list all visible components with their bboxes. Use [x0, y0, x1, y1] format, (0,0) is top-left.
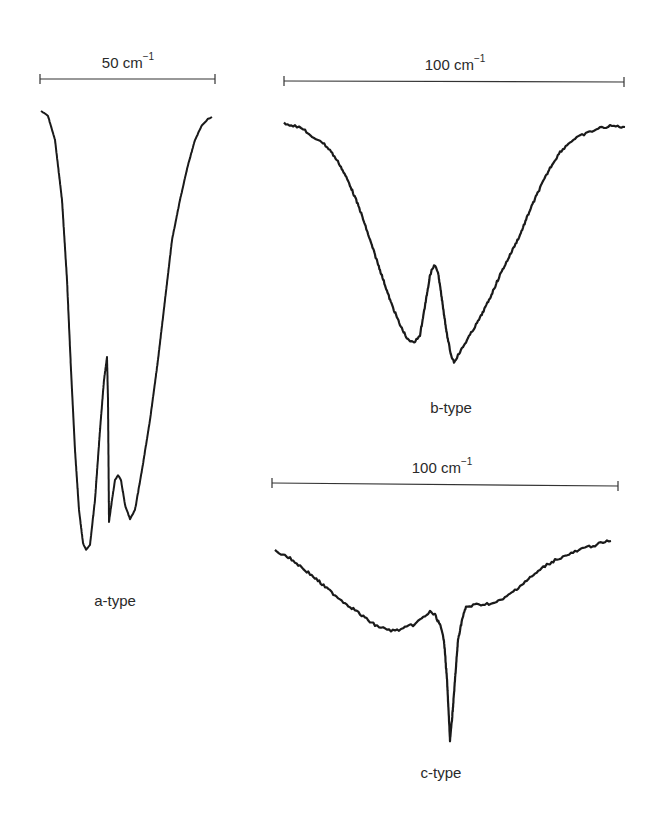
spectrum-trace-c [275, 540, 611, 741]
panel-label-c: c-type [421, 764, 462, 781]
scale-label-b-text: 100 cm [425, 56, 474, 73]
spectrum-trace-a [41, 111, 212, 550]
scale-label-b-exponent: −1 [474, 53, 485, 64]
scale-bar-a [40, 74, 215, 84]
spectra-figure: 50 cm−1 100 cm−1 100 cm−1 a-type b-type … [0, 0, 651, 818]
scale-label-b: 100 cm−1 [425, 55, 486, 73]
scale-bar-b [284, 76, 624, 87]
spectra-plot [0, 0, 651, 818]
scale-bar-c [272, 478, 618, 491]
scale-label-c: 100 cm−1 [412, 458, 473, 476]
scale-label-a-exponent: −1 [143, 51, 154, 62]
scale-label-a: 50 cm−1 [102, 53, 154, 71]
scale-label-a-text: 50 cm [102, 54, 143, 71]
panel-label-a: a-type [94, 592, 136, 609]
panel-label-b: b-type [430, 399, 472, 416]
scale-label-c-text: 100 cm [412, 459, 461, 476]
spectrum-trace-b [284, 123, 625, 363]
scale-label-c-exponent: −1 [461, 456, 472, 467]
